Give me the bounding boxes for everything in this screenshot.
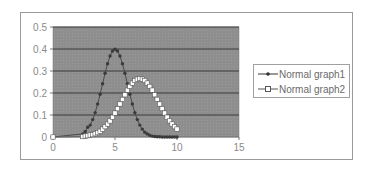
x-tick-label: 5: [112, 142, 118, 153]
y-tick-label: 0: [41, 132, 47, 143]
y-tick-label: 0.5: [33, 22, 47, 33]
line-star-marker-icon: [257, 69, 279, 79]
x-tick-label: 15: [233, 142, 245, 153]
y-tick-label: 0.3: [33, 66, 47, 77]
y-tick-label: 0.1: [33, 110, 47, 121]
x-axis: 051015: [50, 137, 245, 153]
legend-label: Normal graph2: [279, 84, 345, 95]
legend-item-graph1: Normal graph1: [257, 67, 345, 81]
legend-item-graph2: Normal graph2: [257, 82, 345, 96]
y-tick-label: 0.2: [33, 88, 47, 99]
x-tick-label: 0: [50, 142, 56, 153]
x-tick-label: 10: [171, 142, 183, 153]
y-tick-label: 0.4: [33, 44, 47, 55]
legend: Normal graph1 Normal graph2: [253, 64, 350, 98]
line-square-marker-icon: [257, 84, 279, 94]
y-axis: 00.10.20.30.40.5: [33, 22, 53, 143]
legend-label: Normal graph1: [279, 69, 345, 80]
